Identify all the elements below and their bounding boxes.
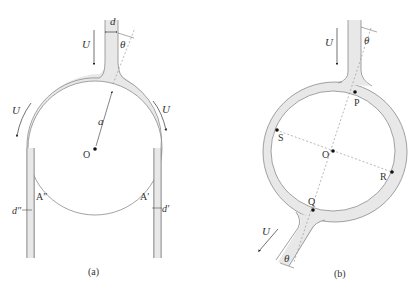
jet-width-label-a: d bbox=[110, 15, 116, 27]
angle-label-a: θ bbox=[120, 38, 126, 50]
point-r-label-b: R bbox=[380, 171, 387, 182]
velocity-label-top-b: U bbox=[325, 36, 334, 48]
velocity-label-right-a: U bbox=[162, 103, 171, 115]
center-label-a: O bbox=[83, 149, 90, 160]
point-q-dot-b bbox=[311, 208, 315, 212]
right-sheet-a bbox=[154, 148, 161, 258]
point-r-dot-b bbox=[390, 170, 394, 174]
point-left-label-a: A″ bbox=[36, 191, 47, 202]
point-q-label-b: Q bbox=[308, 196, 316, 207]
center-dot-a bbox=[93, 147, 97, 151]
figure: d θ U U U a O A″ A′ d″ d′ (a) bbox=[0, 0, 414, 292]
velocity-label-top-a: U bbox=[82, 38, 91, 50]
point-p-dot-b bbox=[353, 90, 357, 94]
inlet-jet-b bbox=[338, 20, 370, 86]
angle-label-bottom-b: θ bbox=[284, 252, 290, 264]
radius-label-a: a bbox=[98, 115, 104, 127]
thickness-label-left-a: d″ bbox=[12, 205, 22, 216]
point-right-label-a: A′ bbox=[140, 191, 149, 202]
caption-b: (b) bbox=[334, 268, 346, 280]
panel-b: θ U P S O R Q U θ (b) bbox=[259, 20, 407, 280]
point-p-label-b: P bbox=[354, 97, 360, 108]
point-s-label-b: S bbox=[278, 132, 284, 143]
angle-label-top-b: θ bbox=[364, 34, 370, 46]
center-dot-b bbox=[331, 149, 335, 153]
panel-a: d θ U U U a O A″ A′ d″ d′ (a) bbox=[12, 15, 171, 278]
velocity-label-left-a: U bbox=[12, 104, 21, 116]
left-sheet-a bbox=[27, 148, 34, 258]
center-label-b: O bbox=[322, 149, 329, 160]
velocity-label-bottom-b: U bbox=[262, 225, 271, 237]
angle-arc-top-b bbox=[361, 27, 377, 32]
caption-a: (a) bbox=[88, 266, 99, 278]
thickness-label-right-a: d′ bbox=[162, 203, 170, 214]
